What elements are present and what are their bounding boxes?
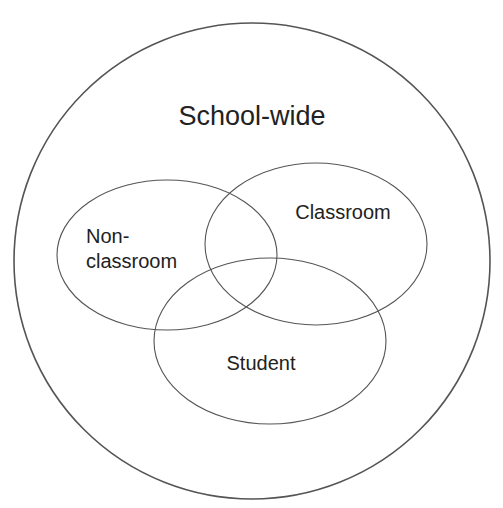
classroom-label-line: Classroom — [295, 201, 391, 223]
venn-diagram: School-wide Non-classroom Classroom Stud… — [0, 0, 503, 508]
non-classroom-label-line: Non- — [86, 225, 129, 247]
school-wide-label: School-wide — [178, 101, 325, 131]
student-label-line: Student — [227, 352, 296, 374]
classroom-label: Classroom — [295, 201, 391, 223]
student-ellipse — [154, 258, 386, 424]
non-classroom-label-line: classroom — [86, 250, 177, 272]
student-label: Student — [227, 352, 296, 374]
non-classroom-label: Non-classroom — [86, 225, 177, 272]
classroom-ellipse — [205, 163, 427, 325]
